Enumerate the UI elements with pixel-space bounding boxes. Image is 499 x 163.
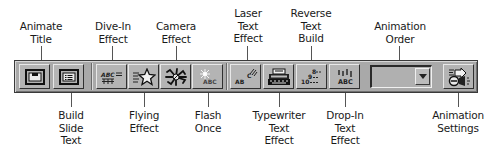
flash-abc-icon: ABC — [197, 68, 219, 86]
label-animation-settings: Animation Settings — [432, 109, 484, 134]
camera-shutter-icon — [165, 68, 187, 86]
flying-effect-button[interactable] — [128, 64, 159, 89]
toolbar-separator — [91, 63, 92, 90]
svg-text:ABC: ABC — [203, 78, 217, 85]
label-dive-in-effect: Dive-In Effect — [95, 20, 131, 45]
flying-star-icon — [132, 68, 156, 86]
leader-reverse-text-build — [311, 46, 312, 60]
animate-title-button[interactable] — [19, 64, 50, 89]
leader-typewriter-text-effect — [279, 93, 280, 107]
label-reverse-text-build: Reverse Text Build — [291, 7, 332, 45]
leader-animation-settings — [458, 93, 459, 107]
leader-flying-effect — [144, 93, 145, 107]
title-slide-icon — [25, 69, 45, 85]
leader-animate-title — [41, 46, 42, 60]
dive-in-abc-icon: ABC — [100, 69, 124, 85]
leader-drop-in-text-effect — [345, 93, 346, 107]
label-laser-text-effect: Laser Text Effect — [233, 7, 262, 45]
leader-build-slide-text — [71, 93, 72, 107]
label-animation-order: Animation Order — [374, 20, 426, 45]
camera-effect-button[interactable] — [160, 64, 191, 89]
svg-text:AB: AB — [235, 78, 245, 85]
laser-abc-icon: AB C — [234, 68, 258, 86]
animation-effects-toolbar: ABC — [14, 60, 478, 93]
dive-in-effect-button[interactable]: ABC — [96, 64, 127, 89]
svg-text:8: 8 — [312, 68, 316, 75]
leader-flash-once — [208, 93, 209, 107]
label-build-slide-text: Build Slide Text — [58, 109, 83, 147]
animation-order-dropdown[interactable] — [370, 65, 432, 88]
animation-settings-icon — [447, 67, 471, 87]
label-animate-title: Animate Title — [20, 20, 63, 45]
svg-text:10: 10 — [301, 78, 309, 85]
label-drop-in-text-effect: Drop-In Text Effect — [326, 109, 363, 147]
flash-once-button[interactable]: ABC — [192, 64, 223, 89]
reverse-order-icon: 8 9 10 — [300, 68, 324, 86]
typewriter-text-effect-button[interactable] — [263, 64, 294, 89]
laser-text-effect-button[interactable]: AB C — [230, 64, 261, 89]
bulleted-list-slide-icon — [59, 69, 79, 85]
drop-in-text-effect-button[interactable]: ABC — [329, 64, 360, 89]
label-camera-effect: Camera Effect — [156, 20, 196, 45]
svg-text:ABC: ABC — [100, 71, 115, 78]
label-flying-effect: Flying Effect — [129, 109, 159, 134]
leader-animation-order — [399, 46, 400, 60]
typewriter-icon — [267, 68, 291, 86]
label-flash-once: Flash Once — [195, 109, 222, 134]
dropdown-arrow-button[interactable] — [415, 68, 430, 85]
label-typewriter-text-effect: Typewriter Text Effect — [253, 109, 306, 147]
dropdown-arrow-icon — [419, 74, 427, 79]
animation-settings-button[interactable] — [443, 64, 474, 89]
leader-dive-in-effect — [112, 46, 113, 60]
build-slide-text-button[interactable] — [53, 64, 84, 89]
reverse-text-build-button[interactable]: 8 9 10 — [296, 64, 327, 89]
toolbar-separator — [226, 63, 227, 90]
drop-in-abc-icon: ABC — [334, 68, 356, 86]
svg-text:ABC: ABC — [338, 78, 353, 86]
leader-laser-text-effect — [247, 46, 248, 60]
leader-camera-effect — [176, 46, 177, 60]
